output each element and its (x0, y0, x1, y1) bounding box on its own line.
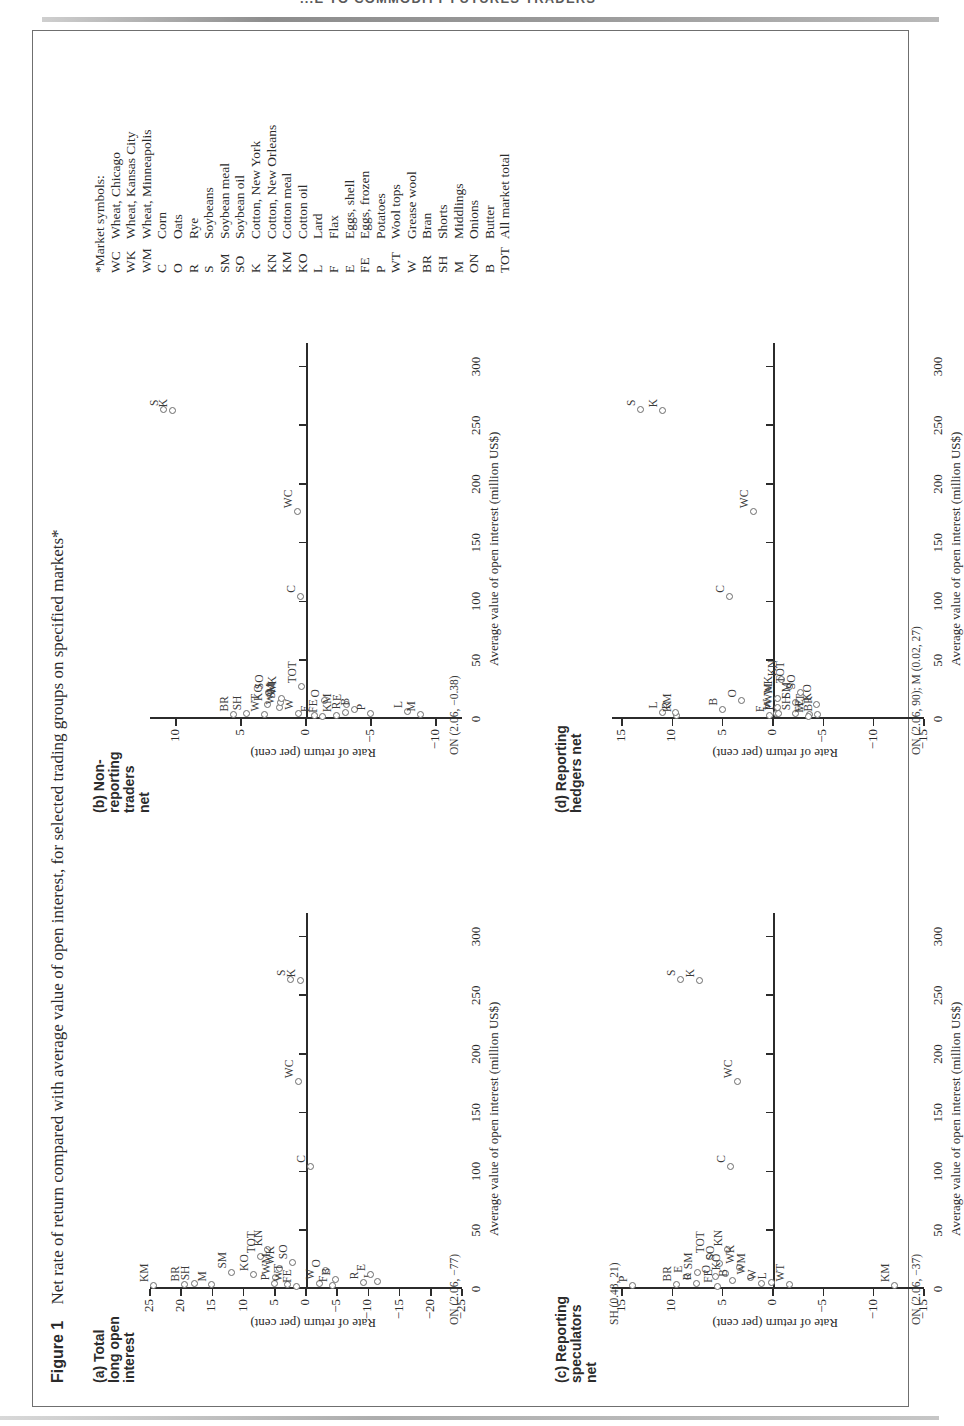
data-point-label: WC (283, 1060, 295, 1079)
data-point-label: C (295, 1155, 307, 1163)
x-tick-label: 300 (930, 350, 946, 384)
data-point-label: R (660, 701, 672, 709)
data-point[interactable] (289, 1259, 296, 1266)
x-tick-label: 0 (930, 702, 946, 736)
data-point[interactable] (297, 593, 304, 600)
key-symbol: SH (435, 239, 451, 273)
y-tick (621, 719, 623, 726)
data-point-label: B (717, 1269, 729, 1277)
y-tick (430, 1289, 432, 1296)
y-tick (336, 1289, 338, 1296)
data-point-label: KN (712, 1230, 724, 1247)
y-tick (435, 719, 437, 726)
data-point[interactable] (714, 1283, 721, 1290)
x-tick-label: 50 (468, 1213, 484, 1247)
data-point-label: SM (682, 1253, 694, 1270)
key-symbol: B (482, 239, 498, 273)
data-point[interactable] (367, 710, 374, 717)
y-tick (672, 719, 674, 726)
key-entry: FEEggs, frozen (357, 125, 373, 273)
data-point[interactable] (374, 1278, 381, 1285)
data-point-label: E (355, 1264, 367, 1271)
data-point[interactable] (342, 709, 349, 716)
x-tick-label: 50 (930, 1213, 946, 1247)
data-point-label: K (647, 399, 659, 407)
data-point[interactable] (729, 1277, 736, 1284)
panel-a-title-line-2: long open (107, 1316, 122, 1383)
key-entry: MMiddlings (451, 125, 467, 273)
data-point[interactable] (333, 712, 340, 719)
data-point[interactable] (693, 1280, 700, 1287)
key-symbol: M (451, 239, 467, 273)
y-axis-title: Rate of return (per cent) (712, 1315, 838, 1331)
key-name: Eggs, frozen (357, 171, 373, 239)
data-point-label: R (348, 1271, 360, 1279)
data-point[interactable] (250, 1271, 257, 1278)
data-point[interactable] (734, 1078, 741, 1085)
key-entry: FFlax (326, 125, 342, 273)
key-entry: KOCotton oil (295, 125, 311, 273)
key-name: Grease wool (404, 171, 420, 239)
data-point[interactable] (297, 977, 304, 984)
data-point-label: WC (722, 1060, 734, 1079)
key-name: Cotton meal (279, 173, 295, 239)
data-point[interactable] (696, 977, 703, 984)
x-axis (306, 913, 308, 1289)
y-tick-label: −10 (427, 729, 443, 763)
x-tick (299, 542, 306, 544)
data-point[interactable] (637, 406, 644, 413)
key-symbol: WK (123, 239, 139, 273)
data-point[interactable] (727, 1163, 734, 1170)
y-tick-label: 10 (167, 729, 183, 763)
y-tick-label: −10 (865, 729, 881, 763)
key-symbol: KM (279, 239, 295, 273)
plot-annotation: ON (2.06, −37) (910, 1254, 922, 1325)
key-rows: WCWheat, ChicagoWKWheat, Kansas CityWMWh… (108, 125, 513, 273)
y-tick (274, 1289, 276, 1296)
data-point[interactable] (659, 407, 666, 414)
key-name: Wool tops (388, 184, 404, 239)
data-point[interactable] (169, 407, 176, 414)
data-point[interactable] (295, 1078, 302, 1085)
data-point[interactable] (813, 701, 820, 708)
data-point-label: F (317, 1276, 329, 1282)
data-point-label: WK (266, 676, 278, 695)
data-point-label: KN (252, 1230, 264, 1247)
data-point[interactable] (738, 697, 745, 704)
x-tick (766, 1112, 773, 1114)
key-entry: BButter (482, 125, 498, 273)
key-entry: KNCotton, New Orleans (264, 125, 280, 273)
data-point[interactable] (332, 1276, 339, 1283)
data-point[interactable] (766, 712, 773, 719)
data-point[interactable] (319, 713, 326, 720)
data-point-label: P (355, 704, 367, 710)
data-point[interactable] (750, 508, 757, 515)
data-point[interactable] (719, 706, 726, 713)
key-name: Rye (186, 218, 202, 239)
x-axis-title: Average value of open interest (million … (948, 1002, 964, 1236)
data-point[interactable] (726, 593, 733, 600)
data-point[interactable] (805, 713, 812, 720)
data-point[interactable] (311, 712, 318, 719)
key-symbol: P (373, 239, 389, 273)
data-point[interactable] (360, 1279, 367, 1286)
data-point[interactable] (307, 1163, 314, 1170)
data-point-label: FE (281, 1269, 293, 1282)
x-tick-label: 100 (468, 1155, 484, 1189)
data-point[interactable] (298, 683, 305, 690)
data-point[interactable] (293, 1283, 300, 1290)
key-symbol: F (326, 239, 342, 273)
data-point[interactable] (891, 1282, 898, 1289)
data-point-label: SH (231, 696, 243, 711)
key-name: Oats (170, 214, 186, 239)
data-point[interactable] (294, 508, 301, 515)
y-tick (722, 1289, 724, 1296)
data-point[interactable] (228, 1269, 235, 1276)
key-name: Soybeans (201, 187, 217, 239)
y-tick (175, 719, 177, 726)
key-name: Corn (154, 212, 170, 239)
y-tick (823, 719, 825, 726)
key-symbol: SO (232, 239, 248, 273)
data-point-label: S (625, 400, 637, 406)
key-name: Onions (466, 200, 482, 239)
